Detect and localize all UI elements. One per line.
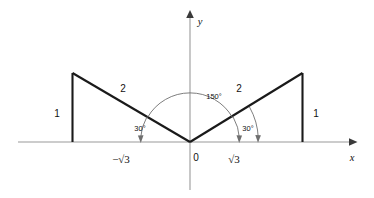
apex-angle-label: 150° xyxy=(206,92,222,101)
right-base-angle-arc-inner xyxy=(233,117,240,139)
left-base-angle-label: 30° xyxy=(134,124,145,133)
right-hypotenuse-length-label: 2 xyxy=(236,83,242,94)
figure-canvas: 1 1 2 2 30° 30° 150° −√3 √3 0 x y xyxy=(0,0,374,198)
origin-label: 0 xyxy=(193,152,199,163)
y-axis-label: y xyxy=(197,16,203,27)
axes-group xyxy=(18,10,358,190)
left-tick-label: −√3 xyxy=(112,153,130,165)
left-vertical-length-label: 1 xyxy=(54,108,60,119)
triangles-group xyxy=(73,73,303,142)
right-vertical-length-label: 1 xyxy=(313,108,319,119)
left-hypotenuse-segment xyxy=(73,73,191,142)
labels-group: 1 1 2 2 30° 30° 150° −√3 √3 0 x y xyxy=(54,16,354,165)
x-axis-label: x xyxy=(349,152,355,163)
left-hypotenuse-length-label: 2 xyxy=(120,83,126,94)
right-base-angle-arc-outer xyxy=(250,107,259,138)
y-axis-arrowhead xyxy=(186,10,194,18)
x-axis-arrowhead xyxy=(349,138,358,146)
right-base-angle-label: 30° xyxy=(242,124,253,133)
geometry-figure: 1 1 2 2 30° 30° 150° −√3 √3 0 x y xyxy=(0,0,374,198)
right-tick-label: √3 xyxy=(228,153,240,165)
